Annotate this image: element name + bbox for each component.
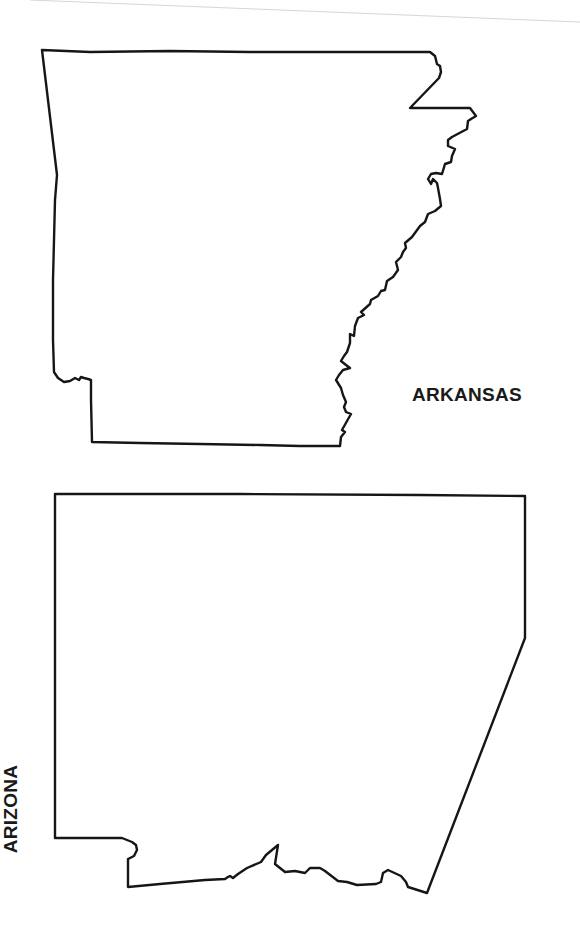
document-page: ARKANSAS ARIZONA [0, 0, 580, 945]
arizona-label: ARIZONA [0, 754, 22, 864]
arizona-outline [55, 494, 525, 893]
state-outlines [0, 0, 580, 945]
arkansas-label: ARKANSAS [412, 384, 522, 406]
arkansas-outline [42, 50, 476, 446]
